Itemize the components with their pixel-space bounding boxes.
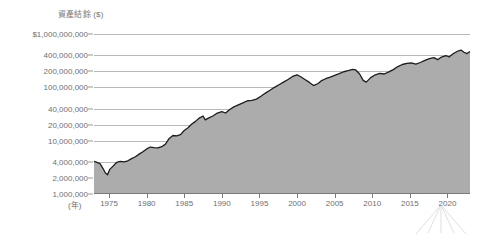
x-axis-tick-label: 2005 <box>326 199 344 208</box>
x-axis-tick-label: 2020 <box>439 199 457 208</box>
x-axis-tick-mark <box>184 194 185 198</box>
x-axis-tick-mark <box>410 194 411 198</box>
y-axis-tick-label: 200,000,000 <box>2 67 88 76</box>
x-axis-tick-label: 1990 <box>213 199 231 208</box>
y-axis-title: 資產結餘 ($) <box>58 8 104 19</box>
x-axis-tick-label: 2015 <box>401 199 419 208</box>
x-axis-tick-mark <box>447 194 448 198</box>
plot-area <box>94 34 470 194</box>
y-axis-tick-label: 4,000,000 <box>2 157 88 166</box>
x-axis-tick-mark <box>335 194 336 198</box>
y-axis-tick-label: 100,000,000 <box>2 83 88 92</box>
chart-root: 資產結餘 ($) $1,000,000,000400,000,000200,00… <box>0 0 488 236</box>
x-axis-tick-label: 1975 <box>100 199 118 208</box>
x-axis-tick-label: 1980 <box>138 199 156 208</box>
y-axis-tick-label: 40,000,000 <box>2 104 88 113</box>
y-axis-tick-label: 20,000,000 <box>2 120 88 129</box>
y-axis-tick-label: 1,000,000 <box>2 190 88 199</box>
y-axis-tick-mark <box>88 108 93 109</box>
y-axis-tick-mark <box>88 124 93 125</box>
x-axis-tick-mark <box>222 194 223 198</box>
y-axis-tick-mark <box>88 87 93 88</box>
x-axis-unit-label: (年) <box>68 199 81 210</box>
x-axis-tick-mark <box>147 194 148 198</box>
y-axis-tick-label: 400,000,000 <box>2 51 88 60</box>
x-axis-tick-label: 2000 <box>288 199 306 208</box>
y-axis-tick-mark <box>88 194 93 195</box>
x-axis-tick-group: 1975198019851990199520002005201020152020 <box>94 194 470 216</box>
x-axis-tick-label: 2010 <box>363 199 381 208</box>
y-axis-tick-mark <box>88 177 93 178</box>
x-axis-tick-mark <box>297 194 298 198</box>
x-axis-tick-label: 1985 <box>175 199 193 208</box>
y-axis-tick-mark <box>88 71 93 72</box>
x-axis-tick-label: 1995 <box>251 199 269 208</box>
y-axis-tick-mark <box>88 55 93 56</box>
asset-balance-area-series <box>94 34 470 194</box>
y-axis-tick-label: 10,000,000 <box>2 136 88 145</box>
y-axis-tick-label: 2,000,000 <box>2 173 88 182</box>
y-axis-tick-label: $1,000,000,000 <box>2 30 88 39</box>
y-axis-tick-mark <box>88 140 93 141</box>
x-axis-tick-mark <box>109 194 110 198</box>
x-axis-tick-mark <box>259 194 260 198</box>
y-axis-tick-mark <box>88 161 93 162</box>
y-axis-tick-group: $1,000,000,000400,000,000200,000,000100,… <box>0 34 88 194</box>
series-fill <box>94 50 470 194</box>
y-axis-tick-mark <box>88 34 93 35</box>
x-axis-tick-mark <box>372 194 373 198</box>
